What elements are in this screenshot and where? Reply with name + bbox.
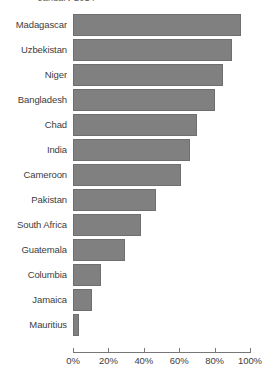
x-axis-tick-mark	[73, 348, 74, 353]
bar-row: Chad	[0, 114, 268, 136]
bar-track	[73, 214, 268, 236]
bar-series: MadagascarUzbekistanNigerBangladeshChadI…	[0, 14, 268, 339]
bar-track	[73, 314, 268, 336]
bar-track	[73, 239, 268, 261]
x-axis-tick-label: 80%	[205, 355, 224, 366]
bar-category-label: Niger	[0, 64, 67, 86]
bar	[73, 314, 79, 336]
bar	[73, 164, 181, 186]
bar-row: Uzbekistan	[0, 39, 268, 61]
bar-row: Niger	[0, 64, 268, 86]
x-axis-tick-label: 20%	[99, 355, 118, 366]
bar	[73, 189, 156, 211]
bar	[73, 64, 223, 86]
bar-track	[73, 189, 268, 211]
bar-track	[73, 114, 268, 136]
bar-track	[73, 164, 268, 186]
bar-category-label: Guatemala	[0, 239, 67, 261]
bar-category-label: Chad	[0, 114, 67, 136]
bar-category-label: Cameroon	[0, 164, 67, 186]
bar-category-label: Mauritius	[0, 314, 67, 336]
bar-row: Jamaica	[0, 289, 268, 311]
x-axis-tick-mark	[179, 348, 180, 353]
bar	[73, 14, 241, 36]
x-axis-tick-label: 100%	[238, 355, 262, 366]
bar	[73, 239, 125, 261]
x-axis-tick-mark	[144, 348, 145, 353]
bar-category-label: South Africa	[0, 214, 67, 236]
bar-track	[73, 139, 268, 161]
bar-category-label: Uzbekistan	[0, 39, 67, 61]
plot-area: MadagascarUzbekistanNigerBangladeshChadI…	[0, 14, 268, 352]
bar	[73, 114, 197, 136]
bar-row: India	[0, 139, 268, 161]
x-axis-tick-label: 60%	[170, 355, 189, 366]
x-axis-tick-mark	[250, 348, 251, 353]
bar-row: Mauritius	[0, 314, 268, 336]
bar	[73, 89, 215, 111]
bar	[73, 289, 92, 311]
bar-category-label: Columbia	[0, 264, 67, 286]
bar-row: Bangladesh	[0, 89, 268, 111]
bar	[73, 214, 141, 236]
bar-category-label: India	[0, 139, 67, 161]
x-axis-tick-label: 0%	[66, 355, 80, 366]
bar-row: South Africa	[0, 214, 268, 236]
x-axis-line	[73, 352, 250, 353]
bar-track	[73, 14, 268, 36]
bar-row: Guatemala	[0, 239, 268, 261]
bar-category-label: Bangladesh	[0, 89, 67, 111]
x-axis-tick-label: 40%	[134, 355, 153, 366]
bar	[73, 139, 190, 161]
bar-track	[73, 39, 268, 61]
bar-category-label: Pakistan	[0, 189, 67, 211]
bar-track	[73, 289, 268, 311]
bar	[73, 264, 101, 286]
bar-row: Pakistan	[0, 189, 268, 211]
bar-track	[73, 264, 268, 286]
bar	[73, 39, 232, 61]
x-axis-tick-mark	[108, 348, 109, 353]
bar-row: Madagascar	[0, 14, 268, 36]
bar-category-label: Madagascar	[0, 14, 67, 36]
bar-row: Cameroon	[0, 164, 268, 186]
bar-track	[73, 64, 268, 86]
bar-track	[73, 89, 268, 111]
bar-category-label: Jamaica	[0, 289, 67, 311]
bar-chart: January 2014 MadagascarUzbekistanNigerBa…	[0, 0, 268, 380]
chart-title: January 2014	[38, 0, 95, 1]
x-axis-tick-mark	[215, 348, 216, 353]
bar-row: Columbia	[0, 264, 268, 286]
